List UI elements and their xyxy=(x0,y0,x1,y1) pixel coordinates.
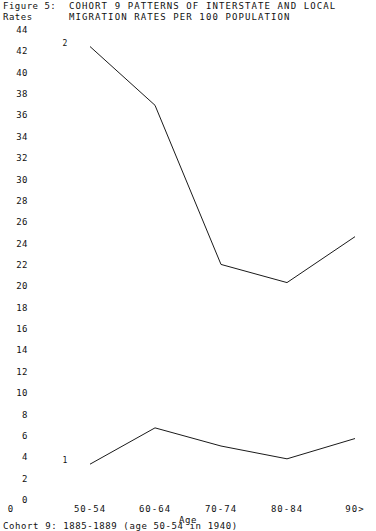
series-line-1 xyxy=(90,428,355,464)
series-line-2 xyxy=(90,47,355,283)
series-label-2: 2 xyxy=(63,38,68,47)
figure-container: Figure 5: COHORT 9 PATTERNS OF INTERSTAT… xyxy=(0,0,376,531)
plot-area: 4442403836343230282624222018161412108642… xyxy=(0,0,376,531)
data-lines-group xyxy=(0,0,376,531)
series-label-1: 1 xyxy=(63,456,68,465)
figure-caption: Cohort 9: 1885-1889 (age 50-54 in 1940) xyxy=(3,521,238,531)
